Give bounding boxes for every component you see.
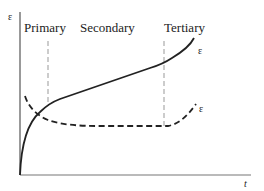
x-axis-label: t <box>244 178 247 189</box>
region-label-primary: Primary <box>24 20 66 35</box>
strain-curve-label: ε <box>198 45 202 56</box>
region-label-secondary: Secondary <box>80 20 135 35</box>
region-label-tertiary: Tertiary <box>164 20 205 35</box>
creep-chart: ε t Primary Secondary Tertiary ε ε <box>0 0 264 191</box>
strain-rate-curve-label: ε <box>199 103 203 114</box>
y-axis-label: ε <box>8 11 12 22</box>
strain-curve <box>20 38 194 175</box>
strain-rate-curve <box>25 96 196 126</box>
